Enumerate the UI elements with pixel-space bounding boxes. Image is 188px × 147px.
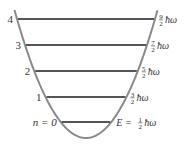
fraction-denominator: 2 [131, 98, 135, 106]
energy-level-diagram: 492ħω372ħω252ħω132ħωn = 0E =12ħω [0, 0, 188, 147]
fraction-denominator: 2 [151, 46, 155, 54]
quantum-number-label: 4 [8, 13, 14, 25]
quantum-number-label: 1 [36, 91, 42, 103]
fraction-denominator: 2 [139, 123, 143, 131]
hbar-omega-label: ħω [136, 92, 148, 103]
quantum-number-label: 2 [25, 65, 31, 77]
fraction-denominator: 2 [142, 72, 146, 80]
energy-prefix: E = [115, 117, 131, 128]
hbar-omega-label: ħω [144, 117, 156, 128]
quantum-number-label: n = 0 [33, 116, 57, 128]
hbar-omega-label: ħω [148, 66, 160, 77]
hbar-omega-label: ħω [165, 14, 177, 25]
quantum-number-label: 3 [16, 39, 22, 51]
hbar-omega-label: ħω [157, 40, 169, 51]
fraction-denominator: 2 [159, 20, 163, 28]
